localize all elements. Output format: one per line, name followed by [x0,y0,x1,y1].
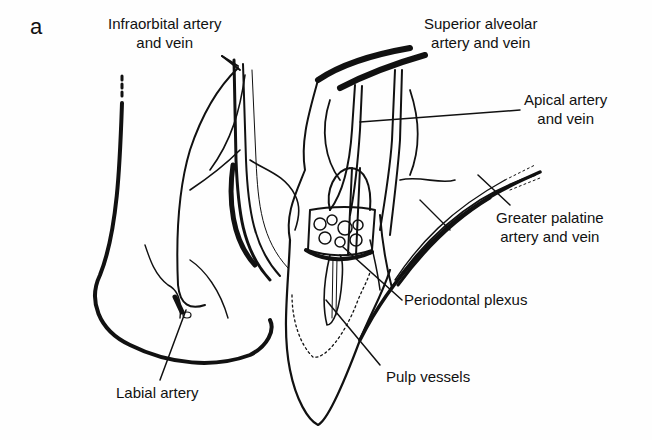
label-line: artery and vein [496,227,604,246]
label-infraorbital-artery-and-vein: Infraorbital artery and vein [108,14,221,52]
apical-leader [360,110,520,122]
label-line: and vein [524,109,607,128]
anatomical-figure: a [0,0,652,440]
label-line: Labial artery [116,383,199,402]
periodontal-leader [343,247,402,300]
label-line: Apical artery [524,90,607,109]
label-periodontal-plexus: Periodontal plexus [404,290,527,309]
label-line: Greater palatine [496,208,604,227]
infraorbital-vessels [234,60,270,280]
label-line: and vein [108,33,221,52]
label-line: Pulp vessels [386,367,470,386]
label-line: Periodontal plexus [404,290,527,309]
label-line: Superior alveolar [424,14,537,33]
label-line: Infraorbital artery [108,14,221,33]
label-greater-palatine-artery-and-vein: Greater palatine artery and vein [496,208,604,246]
label-line: artery and vein [424,33,537,52]
tooth-outline [286,240,390,425]
label-pulp-vessels: Pulp vessels [386,367,470,386]
label-labial-artery: Labial artery [116,383,199,402]
infraorbital-leader [222,56,238,66]
labial-leader [160,310,186,380]
label-superior-alveolar-artery-and-vein: Superior alveolar artery and vein [424,14,537,52]
label-apical-artery-and-vein: Apical artery and vein [524,90,607,128]
apex-tissue [308,207,375,255]
